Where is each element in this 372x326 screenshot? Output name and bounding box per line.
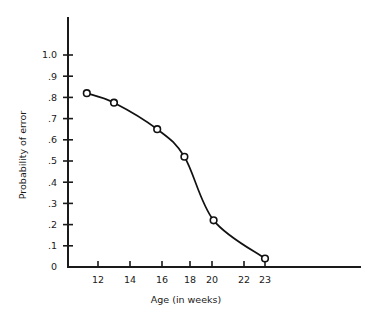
data-point-marker	[181, 153, 188, 160]
y-tick-label: .6	[48, 134, 57, 145]
data-point-marker	[210, 217, 217, 224]
y-tick-label: 0	[51, 261, 57, 272]
y-tick-label: .5	[48, 155, 57, 166]
x-tick-label: 18	[184, 274, 196, 285]
chart-container: 12141618202223 0.1.2.3.4.5.6.7.8.91.0 Ag…	[0, 0, 372, 326]
series-line-probability-of-error	[87, 93, 265, 258]
y-tick-label: .8	[48, 92, 57, 103]
y-tick-label: .7	[48, 113, 57, 124]
x-tick-label: 16	[156, 274, 168, 285]
data-point-markers	[84, 90, 269, 262]
x-axis-tick-labels: 12141618202223	[92, 274, 271, 285]
data-point-marker	[84, 90, 91, 97]
y-axis-tick-labels: 0.1.2.3.4.5.6.7.8.91.0	[42, 49, 57, 272]
x-tick-label: 23	[259, 274, 271, 285]
x-tick-label: 20	[206, 274, 218, 285]
y-tick-label: .1	[48, 240, 57, 251]
x-tick-label: 12	[92, 274, 104, 285]
chart-tick-marks	[63, 55, 265, 268]
chart-axes	[68, 18, 360, 267]
axis-lines	[68, 18, 360, 267]
y-tick-label: 1.0	[42, 49, 57, 60]
data-point-marker	[154, 126, 161, 133]
data-point-marker	[111, 99, 118, 106]
probability-of-error-line-chart: 12141618202223 0.1.2.3.4.5.6.7.8.91.0 Ag…	[0, 0, 372, 326]
y-tick-label: .9	[48, 71, 57, 82]
data-series-curve	[87, 93, 265, 258]
x-axis-title: Age (in weeks)	[151, 294, 221, 305]
x-tick-label: 22	[238, 274, 250, 285]
y-axis-title: Probability of error	[17, 111, 28, 200]
x-tick-label: 14	[124, 274, 136, 285]
y-tick-label: .2	[48, 219, 57, 230]
y-tick-label: .4	[48, 177, 57, 188]
data-point-marker	[262, 255, 269, 262]
y-tick-label: .3	[48, 198, 57, 209]
